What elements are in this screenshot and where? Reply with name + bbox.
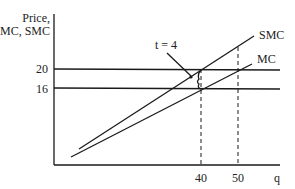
smc-label: SMC [259, 28, 284, 42]
x-tick-50: 50 [232, 171, 244, 185]
x-tick-40: 40 [195, 171, 207, 185]
smc-curve [79, 36, 254, 149]
chart: Price, MC, SMC 20 16 t = 4 SMC MC 40 50 … [0, 0, 295, 189]
mc-curve [71, 64, 252, 157]
price-line-16 [54, 88, 280, 89]
mc-label: MC [257, 52, 276, 66]
arrow-head-icon [189, 75, 192, 78]
tax-label: t = 4 [155, 38, 177, 52]
x-axis-label: q [274, 171, 280, 185]
y-axis-label-line1: Price, [22, 11, 50, 25]
y-tick-20: 20 [36, 62, 48, 76]
price-line-20 [54, 69, 280, 70]
y-tick-16: 16 [36, 82, 48, 96]
tax-arrow [167, 53, 191, 76]
y-axis-label-line2: MC, SMC [0, 24, 50, 38]
